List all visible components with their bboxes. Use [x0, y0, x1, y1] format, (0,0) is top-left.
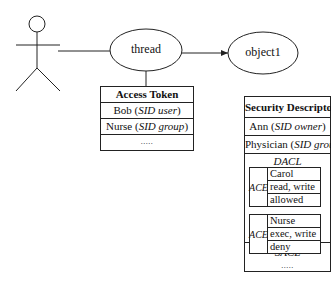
object-node[interactable]: object1 [228, 45, 298, 60]
security-descriptor-title: Security Descriptor [245, 97, 330, 118]
thread-node[interactable]: thread [110, 42, 182, 57]
ace-who: Nurse [268, 215, 320, 228]
ace-rights: read, write [268, 181, 320, 194]
sd-owner-row: Ann (SID owner) [245, 118, 330, 136]
ace-label: ACE [250, 168, 268, 206]
dacl-label: DACL [245, 154, 330, 168]
sacl-more: ..... [245, 259, 330, 272]
ace-entry-1: ACE Carol read, write allowed [249, 167, 321, 207]
ace-who: Carol [268, 168, 320, 181]
token-row-user: Bob (SID user) [101, 103, 193, 119]
ace-label: ACE [250, 215, 268, 253]
access-token-table: Access Token Bob (SID user) Nurse (SID g… [100, 86, 194, 151]
ace-action: deny [268, 241, 320, 253]
ace-rights: exec, write [268, 228, 320, 241]
sd-group-row: Physician (SID group) [245, 136, 330, 154]
ace-action: allowed [268, 194, 320, 206]
actor-icon [16, 16, 60, 91]
token-more: ..... [101, 135, 193, 150]
ace-entry-2: ACE Nurse exec, write deny [249, 214, 321, 254]
access-token-title: Access Token [101, 87, 193, 103]
token-row-group: Nurse (SID group) [101, 119, 193, 135]
